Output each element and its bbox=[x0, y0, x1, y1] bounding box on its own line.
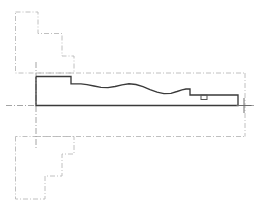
drawing-svg bbox=[0, 0, 262, 214]
reference-crosshair-icon bbox=[237, 98, 252, 113]
lower-left-construction-outline bbox=[16, 137, 75, 200]
technical-drawing-canvas bbox=[0, 0, 262, 214]
annotation-group bbox=[201, 95, 252, 113]
section-profile-outline bbox=[36, 77, 238, 106]
profile-group bbox=[36, 77, 238, 106]
upper-left-construction-outline bbox=[16, 12, 75, 73]
